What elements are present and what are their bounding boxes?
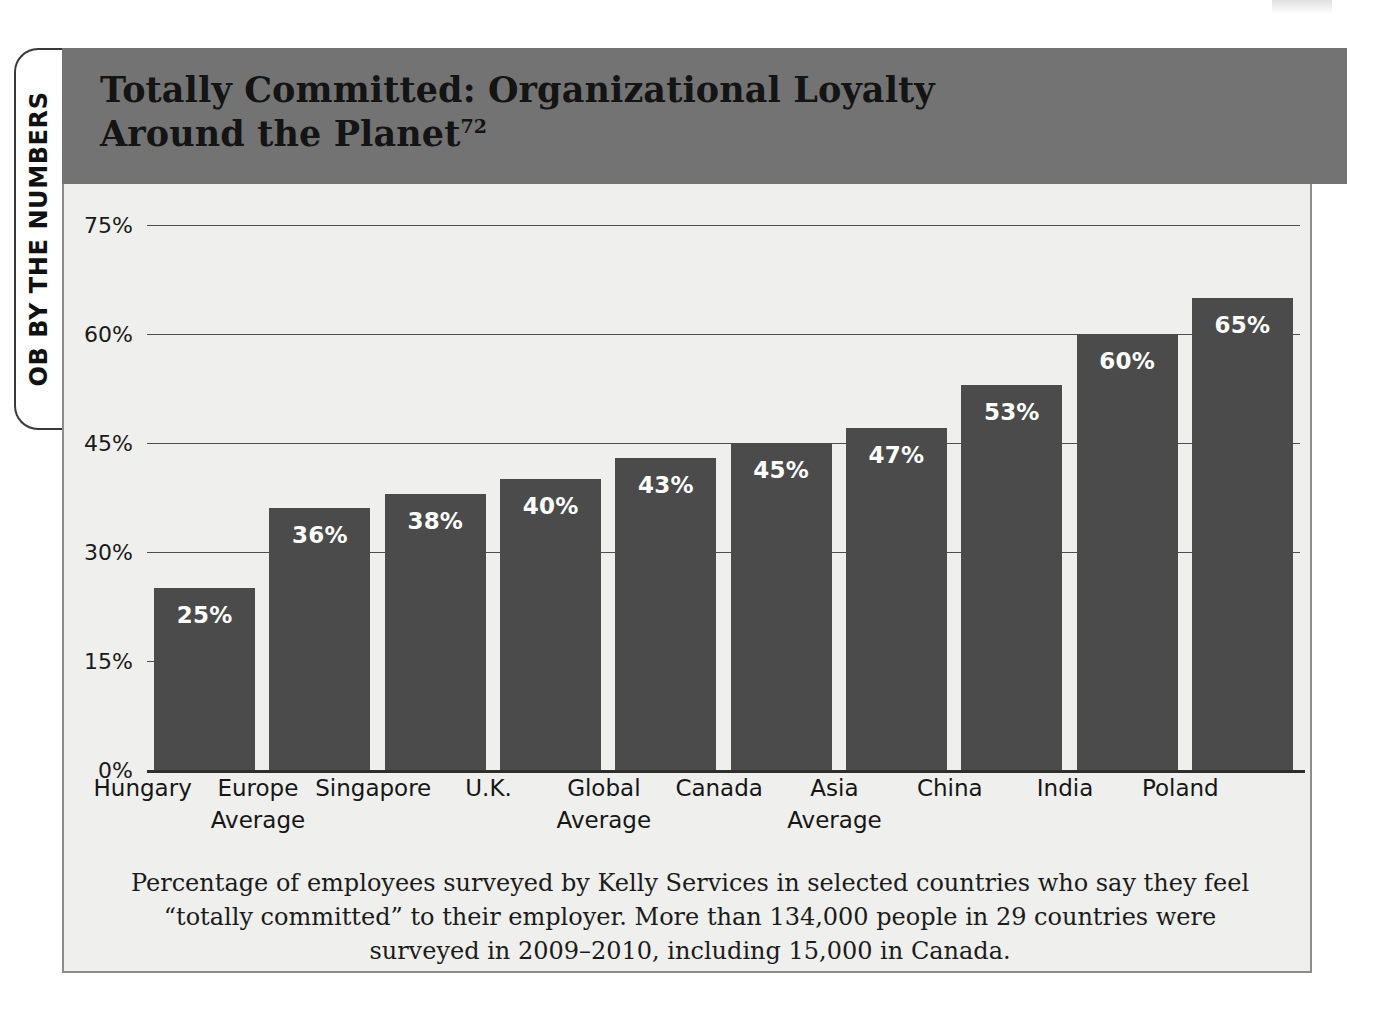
figure-title-line-1: Totally Committed: Organizational Loyalt… (100, 69, 935, 110)
bar-value-label: 36% (269, 522, 370, 548)
x-axis-category-line: India (1007, 772, 1124, 804)
x-axis-category-line: Europe (199, 772, 316, 804)
x-axis-category-label: GlobalAverage (545, 772, 662, 836)
y-axis-tick-label: 30% (84, 540, 133, 565)
bar: 36% (269, 508, 370, 770)
bar: 43% (615, 458, 716, 770)
x-axis-category-line: Global (545, 772, 662, 804)
x-axis-category-line: Singapore (315, 772, 432, 804)
y-axis-tick-label: 45% (84, 431, 133, 456)
bar: 60% (1077, 334, 1178, 770)
x-axis-category-label: Singapore (315, 772, 432, 804)
x-axis-category-label: China (891, 772, 1008, 804)
x-axis-category-line: Average (199, 804, 316, 836)
bar: 53% (961, 385, 1062, 770)
figure-caption: Percentage of employees surveyed by Kell… (110, 866, 1270, 968)
section-tab-ob-by-the-numbers[interactable]: OB BY THE NUMBERS (14, 48, 62, 430)
x-axis-category-label: EuropeAverage (199, 772, 316, 836)
bar-value-label: 38% (385, 508, 486, 534)
bar: 38% (385, 494, 486, 770)
bar-value-label: 43% (615, 472, 716, 498)
x-axis-category-label: AsiaAverage (776, 772, 893, 836)
bar-value-label: 53% (961, 399, 1062, 425)
x-axis-category-line: Average (776, 804, 893, 836)
figure-title: Totally Committed: Organizational Loyalt… (100, 68, 1230, 156)
x-axis-category-line: China (891, 772, 1008, 804)
y-axis-tick-label: 60% (84, 322, 133, 347)
x-axis-category-label: Canada (661, 772, 778, 804)
y-axis-tick-label: 15% (84, 649, 133, 674)
x-axis-category-line: Average (545, 804, 662, 836)
x-axis-category-line: Poland (1122, 772, 1239, 804)
figure-title-footnote-marker: 72 (460, 115, 487, 137)
x-axis-category-label: U.K. (430, 772, 547, 804)
chart-bars: 25%36%38%40%43%45%47%53%60%65% (147, 184, 1300, 770)
chart-x-axis-labels: HungaryEuropeAverageSingaporeU.K.GlobalA… (62, 772, 1312, 856)
bar-value-label: 40% (500, 493, 601, 519)
bar-value-label: 60% (1077, 348, 1178, 374)
x-axis-category-label: Poland (1122, 772, 1239, 804)
y-axis-tick-label: 75% (84, 213, 133, 238)
section-tab-label: OB BY THE NUMBERS (25, 91, 53, 386)
bar: 47% (846, 428, 947, 770)
x-axis-category-line: U.K. (430, 772, 547, 804)
x-axis-category-line: Canada (661, 772, 778, 804)
figure-title-line-2: Around the Planet (100, 113, 460, 154)
x-axis-category-line: Hungary (84, 772, 201, 804)
x-axis-category-line: Asia (776, 772, 893, 804)
bar: 25% (154, 588, 255, 770)
bar: 65% (1192, 298, 1293, 770)
bar-value-label: 25% (154, 602, 255, 628)
bar-value-label: 65% (1192, 312, 1293, 338)
x-axis-category-label: India (1007, 772, 1124, 804)
bar: 40% (500, 479, 601, 770)
bar-value-label: 47% (846, 442, 947, 468)
bar-value-label: 45% (731, 457, 832, 483)
bar: 45% (731, 443, 832, 770)
figure-title-band: Totally Committed: Organizational Loyalt… (62, 48, 1347, 184)
page-number-artifact (1272, 0, 1332, 14)
chart-plot-area: 0%15%30%45%60%75% 25%36%38%40%43%45%47%5… (62, 184, 1312, 784)
x-axis-category-label: Hungary (84, 772, 201, 804)
